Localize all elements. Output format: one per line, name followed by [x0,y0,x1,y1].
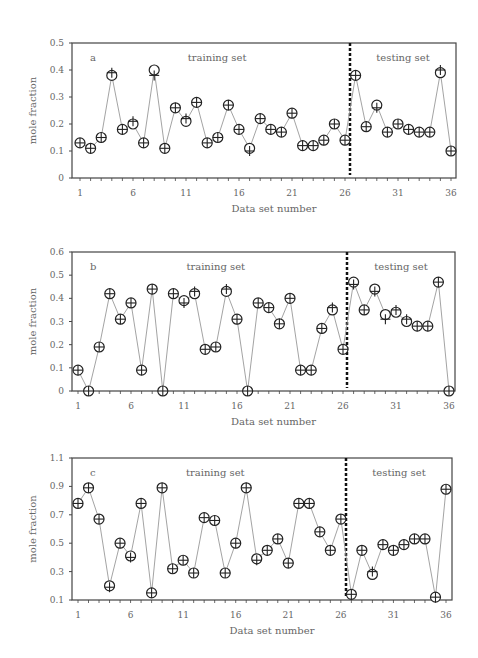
y-axis-title: mole fraction [27,495,38,563]
y-axis-title: mole fraction [27,287,38,355]
y-tick-label: 0 [58,173,64,183]
x-tick-label: 31 [388,610,399,620]
panel-label: a [90,52,96,63]
y-tick-label: 0.4 [50,293,65,303]
y-axis-title: mole fraction [27,76,38,144]
y-tick-label: 0.6 [50,247,65,257]
x-tick-label: 21 [283,610,294,620]
x-tick-label: 26 [335,610,347,620]
y-tick-label: 0.3 [50,317,65,327]
x-tick-label: 11 [180,188,191,198]
x-tick-label: 11 [178,401,189,411]
x-tick-label: 1 [77,188,83,198]
x-tick-label: 36 [443,401,455,411]
x-tick-label: 6 [128,610,134,620]
x-tick-label: 26 [339,188,351,198]
x-tick-label: 21 [284,401,295,411]
x-tick-label: 6 [130,188,136,198]
y-tick-label: 0.1 [50,363,64,373]
x-axis-title: Data set number [230,625,315,636]
panel-label: b [90,261,96,272]
y-tick-label: 1.1 [50,453,64,463]
y-tick-label: 0.1 [50,146,64,156]
y-tick-label: 0 [58,386,64,396]
plot-frame [72,458,452,600]
y-tick-label: 0.2 [50,119,64,129]
series-line [78,488,446,597]
x-tick-label: 1 [75,401,81,411]
chart-panel-c: 0.10.30.50.70.91.116111621263136Data set… [27,453,452,636]
testing-set-label: testing set [372,467,425,478]
x-tick-label: 36 [445,188,457,198]
panel-label: c [90,467,96,478]
chart-panel-b: 00.10.20.30.40.50.616111621263136Data se… [27,247,455,427]
training-set-label: training set [186,261,245,272]
plot-frame [72,252,455,391]
y-tick-label: 0.4 [50,65,65,75]
plot-frame [72,43,456,178]
y-tick-label: 0.1 [50,595,64,605]
training-set-label: training set [188,52,247,63]
x-tick-label: 1 [75,610,81,620]
x-tick-label: 26 [337,401,349,411]
chart-panel-a: 00.10.20.30.40.516111621263136Data set n… [27,38,457,214]
y-tick-label: 0.5 [50,270,65,280]
x-tick-label: 36 [440,610,452,620]
x-tick-label: 16 [231,401,243,411]
x-tick-label: 16 [230,610,242,620]
y-tick-label: 0.3 [50,92,65,102]
x-axis-title: Data set number [231,416,316,427]
x-tick-label: 31 [390,401,401,411]
y-tick-label: 0.9 [50,481,65,491]
training-set-label: training set [186,467,245,478]
x-tick-label: 21 [286,188,297,198]
x-tick-label: 6 [128,401,134,411]
x-axis-title: Data set number [232,203,317,214]
x-tick-label: 16 [233,188,245,198]
y-tick-label: 0.7 [50,510,65,520]
testing-set-label: testing set [376,52,429,63]
y-tick-label: 0.5 [50,538,65,548]
figure: 00.10.20.30.40.516111621263136Data set n… [0,0,478,658]
y-tick-label: 0.3 [50,567,65,577]
x-tick-label: 31 [392,188,403,198]
series-line [80,70,451,151]
y-tick-label: 0.2 [50,340,64,350]
x-tick-label: 11 [177,610,188,620]
testing-set-label: testing set [374,261,427,272]
y-tick-label: 0.5 [50,38,65,48]
